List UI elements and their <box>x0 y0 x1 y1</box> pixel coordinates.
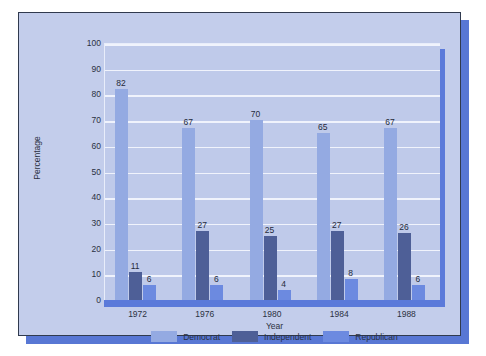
bar-value-label: 70 <box>239 109 273 119</box>
y-axis-tick-label: 80 <box>92 89 101 99</box>
bar-value-label: 6 <box>199 274 233 284</box>
plot-area <box>104 43 440 300</box>
bar-value-label: 6 <box>401 274 435 284</box>
bar-independent-1976 <box>196 231 209 300</box>
bar-value-label: 8 <box>334 268 368 278</box>
chart-frame: 0102030405060708090100 Percentage Year D… <box>18 12 461 336</box>
legend-item-democrat[interactable]: Democrat <box>151 331 220 342</box>
bar-democrat-1984 <box>317 133 330 300</box>
bar-republican-1988 <box>412 285 425 300</box>
bar-republican-1976 <box>210 285 223 300</box>
y-axis: 0102030405060708090100 <box>71 43 101 300</box>
y-axis-tick-label: 40 <box>92 192 101 202</box>
y-axis-title: Percentage <box>32 113 42 203</box>
bar-independent-1984 <box>331 231 344 300</box>
legend-label: Independent <box>264 332 311 342</box>
gridline <box>105 44 440 46</box>
legend-swatch-democrat <box>151 331 177 342</box>
y-axis-tick-label: 20 <box>92 244 101 254</box>
y-axis-tick-label: 90 <box>92 64 101 74</box>
bar-value-label: 65 <box>306 122 340 132</box>
gridline <box>105 70 440 72</box>
bar-republican-1980 <box>278 290 291 300</box>
bar-value-label: 67 <box>373 117 407 127</box>
bar-value-label: 82 <box>104 78 138 88</box>
y-axis-tick-label: 30 <box>92 218 101 228</box>
legend-label: Republican <box>355 332 398 342</box>
legend-swatch-independent <box>232 331 258 342</box>
y-axis-tick-label: 70 <box>92 115 101 125</box>
legend-item-independent[interactable]: Independent <box>232 331 311 342</box>
bar-value-label: 25 <box>253 225 287 235</box>
legend-swatch-republican <box>323 331 349 342</box>
chart-page: 0102030405060708090100 Percentage Year D… <box>0 0 486 356</box>
legend-label: Democrat <box>183 332 220 342</box>
y-axis-tick-label: 60 <box>92 141 101 151</box>
x-axis-tick-label: 1980 <box>242 309 302 319</box>
bar-democrat-1980 <box>250 120 263 300</box>
legend-item-republican[interactable]: Republican <box>323 331 398 342</box>
y-axis-tick-label: 0 <box>96 295 101 305</box>
bar-democrat-1988 <box>384 128 397 300</box>
bar-value-label: 67 <box>171 117 205 127</box>
bar-democrat-1976 <box>182 128 195 300</box>
bar-republican-1972 <box>143 285 156 300</box>
y-axis-tick-label: 10 <box>92 269 101 279</box>
x-axis-tick-label: 1988 <box>376 309 436 319</box>
bar-value-label: 27 <box>320 220 354 230</box>
bar-independent-1980 <box>264 236 277 300</box>
bar-value-label: 27 <box>185 220 219 230</box>
x-axis-line <box>104 300 445 307</box>
y-axis-tick-label: 50 <box>92 167 101 177</box>
y-axis-tick-label: 100 <box>87 38 101 48</box>
bar-independent-1988 <box>398 233 411 300</box>
x-axis-tick-label: 1972 <box>108 309 168 319</box>
gridline <box>105 95 440 97</box>
bar-value-label: 6 <box>132 274 166 284</box>
x-axis-tick-label: 1976 <box>175 309 235 319</box>
bar-republican-1984 <box>345 279 358 300</box>
chart-legend: DemocratIndependentRepublican <box>104 331 445 342</box>
x-axis-tick-label: 1984 <box>309 309 369 319</box>
bar-value-label: 26 <box>387 222 421 232</box>
x-axis-title: Year <box>104 321 445 331</box>
bar-value-label: 4 <box>267 279 301 289</box>
bar-value-label: 11 <box>118 261 152 271</box>
